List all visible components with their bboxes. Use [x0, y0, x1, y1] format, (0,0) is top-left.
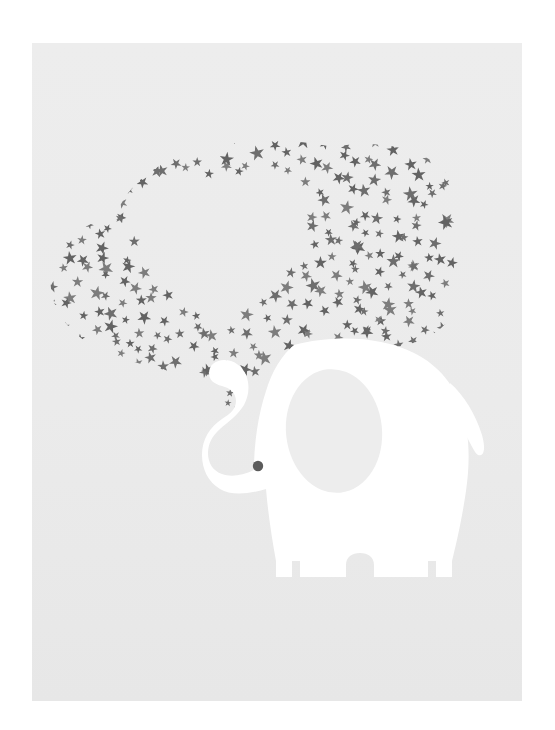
heart-void-label: Heart-shaped gap in the star cloud — [0, 0, 1, 1]
elephant-star-illustration — [32, 43, 522, 701]
artwork-canvas: Elephant Blowing a Heart of Stars Nurser… — [0, 0, 555, 730]
artwork-motif-label: star cloud forming a heart — [0, 0, 1, 1]
artwork-title: Elephant Blowing a Heart of Stars — [0, 0, 1, 1]
artwork-subject-label: elephant — [0, 0, 1, 1]
elephant-eye — [253, 461, 263, 471]
artwork-medium: Nursery art print / poster illustration — [0, 0, 1, 1]
poster-panel — [32, 43, 522, 701]
